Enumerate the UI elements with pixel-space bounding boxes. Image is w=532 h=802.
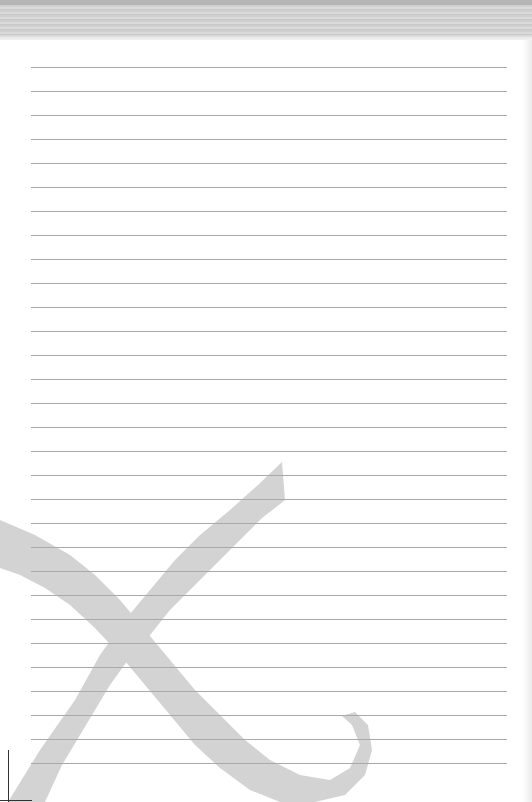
ruled-line [31, 667, 507, 668]
ruled-line [31, 571, 507, 572]
right-edge-shadow [522, 40, 532, 802]
ruled-line [31, 235, 507, 236]
ruled-line [31, 91, 507, 92]
ruled-line [31, 691, 507, 692]
ruled-line [31, 475, 507, 476]
ruled-line [31, 451, 507, 452]
ruled-line [31, 523, 507, 524]
ruled-line [31, 187, 507, 188]
ruled-line [31, 307, 507, 308]
ruled-line [31, 547, 507, 548]
ruled-line [31, 283, 507, 284]
ruled-line [31, 211, 507, 212]
ruled-lines [31, 0, 507, 802]
ruled-line [31, 763, 507, 764]
ruled-line [31, 715, 507, 716]
ruled-line [31, 67, 507, 68]
ruled-line [31, 427, 507, 428]
crop-mark-horizontal [0, 800, 32, 801]
ruled-line [31, 643, 507, 644]
ruled-line [31, 331, 507, 332]
ruled-line [31, 355, 507, 356]
ruled-line [31, 403, 507, 404]
ruled-line [31, 139, 507, 140]
ruled-line [31, 619, 507, 620]
ruled-line [31, 259, 507, 260]
ruled-line [31, 379, 507, 380]
ruled-line [31, 739, 507, 740]
crop-mark-vertical [8, 750, 9, 802]
ruled-line [31, 499, 507, 500]
ruled-line [31, 163, 507, 164]
ruled-line [31, 115, 507, 116]
ruled-line [31, 595, 507, 596]
